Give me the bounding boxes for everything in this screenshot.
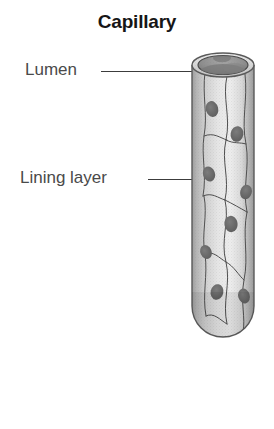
capillary-svg (186, 44, 260, 354)
capillary-illustration (186, 44, 260, 354)
page-title: Capillary (0, 11, 274, 33)
figure-canvas: Capillary Lumen Lining layer (0, 0, 274, 429)
label-lumen: Lumen (25, 60, 77, 80)
label-lining-layer: Lining layer (20, 168, 107, 188)
vessel-base-shadow (192, 292, 254, 337)
